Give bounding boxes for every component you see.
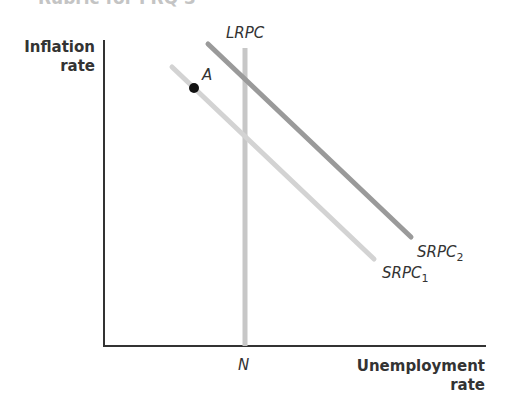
n-tick-label: N	[238, 356, 249, 374]
point-a-label: A	[202, 66, 212, 84]
x-axis-label-line1: Unemployment	[330, 357, 485, 376]
x-axis-label-line2: rate	[330, 376, 485, 395]
x-axis-label: Unemployment rate	[330, 357, 485, 395]
srpc1-label-text: SRPC	[382, 264, 421, 282]
srpc1-label: SRPC1	[382, 264, 428, 285]
lrpc-label: LRPC	[226, 24, 264, 42]
point-a-marker	[189, 83, 199, 93]
srpc1-subscript: 1	[421, 272, 428, 285]
srpc1-line	[172, 67, 374, 259]
y-axis-label-line1: Inflation	[0, 38, 95, 57]
srpc2-label-text: SRPC	[417, 243, 456, 261]
y-axis-label: Inflation rate	[0, 38, 95, 76]
srpc2-line	[208, 44, 411, 237]
y-axis-label-line2: rate	[0, 57, 95, 76]
srpc2-label: SRPC2	[417, 243, 463, 264]
srpc2-subscript: 2	[456, 251, 463, 264]
